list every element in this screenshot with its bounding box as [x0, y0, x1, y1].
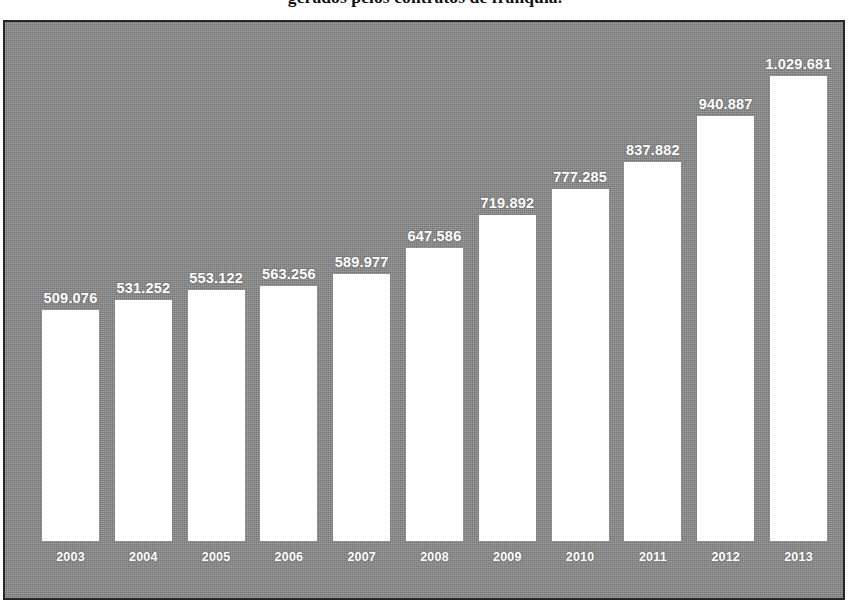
- bar-group-2009: 719.8922009: [479, 215, 536, 541]
- x-axis-tick-label: 2012: [711, 550, 740, 564]
- bar[interactable]: [697, 116, 754, 541]
- bar-group-2004: 531.2522004: [115, 300, 172, 541]
- bar-value-label: 589.977: [335, 254, 389, 270]
- bar[interactable]: [188, 290, 245, 541]
- x-axis-tick-label: 2010: [566, 550, 595, 564]
- bar-group-2010: 777.2852010: [552, 189, 609, 541]
- bar[interactable]: [479, 215, 536, 541]
- bar[interactable]: [333, 274, 390, 541]
- x-axis-tick-label: 2006: [275, 550, 304, 564]
- bar-value-label: 940.887: [699, 96, 753, 112]
- bar-chart-plot: 509.0762003531.2522004553.1222005563.256…: [5, 22, 843, 598]
- x-axis-tick-label: 2011: [639, 550, 667, 564]
- bar-group-2005: 553.1222005: [188, 290, 245, 541]
- x-axis-tick-label: 2009: [493, 550, 522, 564]
- x-axis-tick-label: 2005: [202, 550, 231, 564]
- bar-value-label: 553.122: [189, 270, 243, 286]
- x-axis-tick-label: 2008: [420, 550, 449, 564]
- bar-value-label: 563.256: [262, 266, 316, 282]
- bar-group-2011: 837.8822011: [624, 162, 681, 541]
- bar-group-2012: 940.8872012: [697, 116, 754, 541]
- page-title: gerados pelos contratos de franquia.: [0, 0, 850, 8]
- x-axis-tick-label: 2003: [56, 550, 85, 564]
- bar-group-2003: 509.0762003: [42, 310, 99, 541]
- bar-group-2008: 647.5862008: [406, 248, 463, 541]
- bar-value-label: 1.029.681: [765, 56, 831, 72]
- bar-value-label: 647.586: [408, 228, 462, 244]
- bar-group-2006: 563.2562006: [260, 286, 317, 541]
- bar[interactable]: [42, 310, 99, 541]
- bar-group-2007: 589.9772007: [333, 274, 390, 541]
- x-axis-tick-label: 2007: [347, 550, 376, 564]
- x-axis-tick-label: 2004: [129, 550, 158, 564]
- chart-title-strip: gerados pelos contratos de franquia.: [0, 0, 850, 16]
- bar[interactable]: [115, 300, 172, 541]
- bar-value-label: 719.892: [480, 195, 534, 211]
- bar[interactable]: [552, 189, 609, 541]
- bar[interactable]: [770, 76, 827, 541]
- bar[interactable]: [406, 248, 463, 541]
- bar-value-label: 777.285: [553, 169, 607, 185]
- x-axis-tick-label: 2013: [784, 550, 813, 564]
- bar[interactable]: [260, 286, 317, 541]
- bar[interactable]: [624, 162, 681, 541]
- chart-frame: 509.0762003531.2522004553.1222005563.256…: [3, 20, 845, 600]
- bar-value-label: 531.252: [116, 280, 170, 296]
- bar-group-2013: 1.029.6812013: [770, 76, 827, 541]
- bar-value-label: 837.882: [626, 142, 680, 158]
- bar-value-label: 509.076: [44, 290, 98, 306]
